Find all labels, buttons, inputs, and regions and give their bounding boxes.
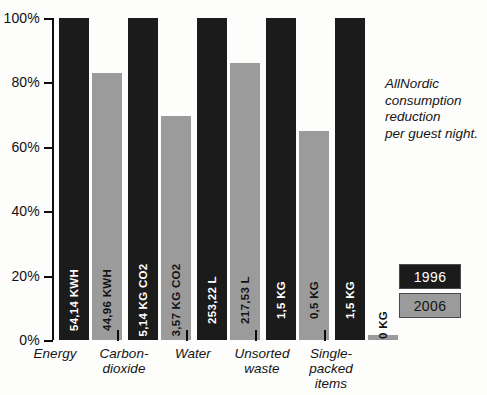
y-tick-label-20: 20% [11,268,40,284]
category-label-single-packed-items-line-2: packed [288,361,374,376]
bar-energy-2006[interactable]: 44,96 KWH [92,73,122,340]
legend-item-1996[interactable]: 1996 [399,264,461,289]
category-label-single-packed-items-line-1: Single- [288,346,374,361]
y-tick-label-100: 100% [3,10,40,26]
bar-value-water-1996: 253,22 L [206,276,218,324]
legend-item-2006[interactable]: 2006 [399,293,461,318]
bar-group-energy: 54,14 KWH 44,96 KWH [55,18,121,340]
category-label-carbon-dioxide-line-2: dioxide [81,361,167,376]
bar-value-unsorted-waste-2006: 0,5 KG [308,281,320,319]
chart-legend: 1996 2006 [399,264,461,322]
bar-water-2006[interactable]: 217,53 L [230,63,260,340]
bar-unsorted-waste-2006[interactable]: 0,5 KG [299,131,329,340]
legend-label-1996: 1996 [400,269,460,285]
y-axis-line [52,18,54,340]
bar-value-single-packed-items-2006: 0 KG [377,311,389,339]
annotation-line-4: per guest night. [385,126,485,143]
group-separator-4 [324,330,326,341]
y-tick-label-60: 60% [11,139,40,155]
bar-group-single-packed-items: 1,5 KG 0 KG [331,18,397,340]
bar-unsorted-waste-1996[interactable]: 1,5 KG [266,18,296,340]
bar-group-carbon-dioxide: 5,14 KG CO2 3,57 KG CO2 [124,18,190,340]
category-label-single-packed-items-line-3: items [288,376,374,391]
bar-value-energy-2006: 44,96 KWH [101,269,113,331]
chart-page: 0% 20% 40% 60% 80% 100% 54,14 KWH [0,0,487,395]
group-separator-1 [117,330,119,341]
legend-label-2006: 2006 [400,298,460,314]
y-tick-label-80: 80% [11,74,40,90]
annotation-line-1: AllNordic [385,76,485,93]
bar-group-water: 253,22 L 217,53 L [193,18,259,340]
y-tick-label-40: 40% [11,203,40,219]
bar-value-unsorted-waste-1996: 1,5 KG [275,281,287,319]
bar-carbon-dioxide-1996[interactable]: 5,14 KG CO2 [128,18,158,340]
annotation-line-3: reduction [385,109,485,126]
chart-annotation: AllNordic consumption reduction per gues… [385,76,485,142]
group-separator-2 [186,330,188,341]
bar-value-carbon-dioxide-2006: 3,57 KG CO2 [170,264,182,337]
annotation-line-2: consumption [385,93,485,110]
bar-single-packed-items-1996[interactable]: 1,5 KG [335,18,365,340]
bar-value-water-2006: 217,53 L [239,276,251,324]
bar-value-carbon-dioxide-1996: 5,14 KG CO2 [137,264,149,337]
plot-area: 0% 20% 40% 60% 80% 100% 54,14 KWH [52,18,382,340]
bar-water-1996[interactable]: 253,22 L [197,18,227,340]
bar-value-single-packed-items-1996: 1,5 KG [344,281,356,319]
bar-group-unsorted-waste: 1,5 KG 0,5 KG [262,18,328,340]
bar-carbon-dioxide-2006[interactable]: 3,57 KG CO2 [161,116,191,340]
bar-value-energy-1996: 54,14 KWH [68,269,80,331]
group-separator-3 [255,330,257,341]
bar-energy-1996[interactable]: 54,14 KWH [59,18,89,340]
bar-single-packed-items-2006[interactable]: 0 KG [368,335,398,340]
category-label-single-packed-items: Single- packed items [288,346,374,391]
